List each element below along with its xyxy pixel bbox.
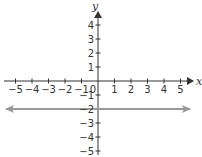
y-tick-label: −5 <box>79 146 94 157</box>
x-tick-label: 5 <box>177 84 183 95</box>
y-tick-label: 1 <box>88 62 94 73</box>
y-tick-label: −3 <box>79 118 94 129</box>
x-tick-label: −3 <box>41 84 56 95</box>
y-tick-label: 3 <box>88 34 94 45</box>
coordinate-plane: x y −5−4−3−2−11234504321−1−2−3−4−5 <box>0 0 202 156</box>
y-axis-label: y <box>91 0 99 13</box>
x-tick-label: −5 <box>8 84 23 95</box>
x-tick-label: −2 <box>58 84 73 95</box>
y-tick-label: 2 <box>88 48 94 59</box>
x-axis-label: x <box>196 75 202 88</box>
x-tick-label: 2 <box>128 84 134 95</box>
x-tick-label: 3 <box>144 84 150 95</box>
y-tick-label: −4 <box>79 132 94 143</box>
x-tick-label: −4 <box>25 84 40 95</box>
x-tick-label: 1 <box>111 84 117 95</box>
y-tick-label: −2 <box>79 104 94 115</box>
x-tick-label: 4 <box>161 84 167 95</box>
y-tick-label: −1 <box>79 90 94 101</box>
y-tick-label: 4 <box>88 20 94 31</box>
tick-labels: −5−4−3−2−11234504321−1−2−3−4−5 <box>8 20 184 157</box>
